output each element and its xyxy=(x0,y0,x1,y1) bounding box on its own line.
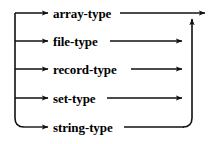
node-record-type[interactable]: record-type xyxy=(53,63,117,76)
node-string-type[interactable]: string-type xyxy=(53,121,113,134)
exit-rail-spine xyxy=(183,19,192,127)
node-file-type[interactable]: file-type xyxy=(53,35,98,48)
entry-rail-spine xyxy=(15,13,24,127)
syntax-diagram: array-type file-type record-type set-typ… xyxy=(0,0,210,144)
node-set-type[interactable]: set-type xyxy=(53,92,96,105)
node-array-type[interactable]: array-type xyxy=(53,7,111,20)
